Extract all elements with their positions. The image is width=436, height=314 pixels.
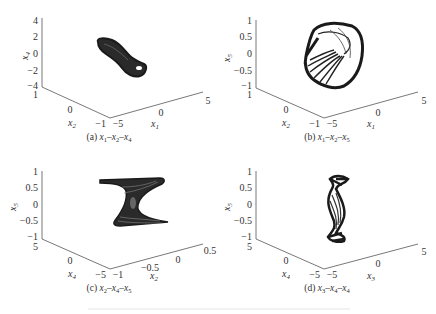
z-axis-label: x5 — [221, 203, 234, 212]
x-axis — [324, 244, 418, 269]
y-tick: 5 — [33, 241, 38, 252]
y-tick: 0 — [68, 255, 73, 266]
y-tick: 0 — [68, 104, 73, 115]
x-tick: 5 — [422, 246, 427, 257]
x-tick: 0 — [376, 258, 381, 269]
caption-a: (a) x1–x2–x4 — [0, 128, 218, 148]
z-tick: −0.5 — [234, 215, 252, 226]
z-tick: 1 — [247, 15, 252, 26]
svg-text:(d) x3–x4–x4: (d) x3–x4–x4 — [304, 283, 350, 294]
x-tick: 0 — [376, 107, 381, 118]
z-tick: 1 — [247, 166, 252, 177]
y-tick: 1 — [33, 89, 38, 100]
attractor-a — [98, 38, 146, 76]
y-axis — [42, 87, 110, 118]
attractor-c — [100, 178, 168, 226]
z-tick: −0.5 — [234, 65, 252, 76]
y-tick: 5 — [247, 241, 252, 252]
z-tick: −0.5 — [20, 215, 38, 226]
faint-caption-bar — [88, 308, 350, 310]
z-tick: 2 — [33, 31, 38, 42]
y-tick: 0 — [284, 255, 289, 266]
z-tick: 0.5 — [240, 182, 253, 193]
z-axis-label: x4 — [19, 52, 32, 61]
y-tick: 1 — [247, 89, 252, 100]
x-tick: 5 — [206, 95, 211, 106]
z-tick: 0 — [33, 199, 38, 210]
x-axis — [110, 92, 203, 118]
z-tick: 4 — [33, 15, 38, 26]
attractor-b — [305, 23, 362, 87]
z-tick: −2 — [27, 65, 38, 76]
y-axis — [256, 88, 324, 118]
z-tick: 0.5 — [240, 31, 253, 42]
figure-caption-faint — [0, 300, 436, 314]
x-tick: 0.5 — [204, 245, 217, 256]
z-tick: 0 — [247, 199, 252, 210]
y-axis — [256, 239, 324, 269]
y-tick: 0 — [284, 104, 289, 115]
z-tick: 1 — [33, 166, 38, 177]
y-axis — [42, 239, 110, 269]
z-tick: 0 — [33, 48, 38, 59]
z-axis-label: x5 — [221, 54, 234, 63]
caption-b: (b) x1–x2–x5 — [218, 128, 436, 148]
x-tick: 0 — [159, 107, 164, 118]
svg-text:(b) x1–x2–x5: (b) x1–x2–x5 — [304, 132, 349, 143]
z-tick: 0 — [247, 48, 252, 59]
caption-c: (c) x2–x4–x5 — [0, 279, 218, 299]
x-axis — [324, 92, 418, 118]
svg-text:(a) x1–x2–x4: (a) x1–x2–x4 — [87, 132, 133, 143]
x-tick: 0 — [176, 254, 181, 265]
z-axis-label: x5 — [7, 203, 20, 212]
x-tick: 5 — [422, 95, 427, 106]
attractor-d — [328, 176, 348, 242]
svg-text:(c) x2–x4–x5: (c) x2–x4–x5 — [87, 283, 132, 294]
caption-d: (d) x3–x4–x4 — [218, 279, 436, 299]
z-tick: 0.5 — [26, 182, 39, 193]
